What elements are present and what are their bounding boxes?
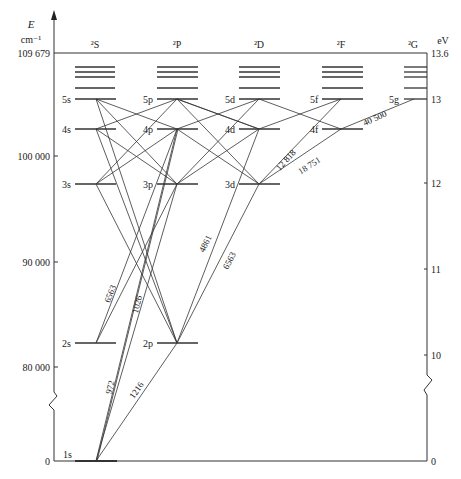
svg-text:1s: 1s <box>63 449 72 460</box>
left-tick-label: 0 <box>45 456 50 467</box>
wavelength-labels: 6563 1026 972 1216 4861 6563 12 818 18 7… <box>102 108 388 400</box>
left-tick-label: 80 000 <box>23 362 51 373</box>
svg-text:5g: 5g <box>389 94 399 105</box>
svg-text:3d: 3d <box>225 179 235 190</box>
right-tick-label: 12 <box>431 178 441 189</box>
transition-lines <box>96 99 414 461</box>
right-tick-label: 13 <box>431 94 441 105</box>
left-top-value: 109 679 <box>18 48 51 59</box>
right-tick-label: 13.6 <box>431 48 449 59</box>
right-tick-label: 0 <box>431 456 436 467</box>
axis-arrow-icon <box>51 10 57 20</box>
wavelength-label: 4861 <box>197 233 214 254</box>
svg-text:4s: 4s <box>62 124 71 135</box>
header-2D: ²D <box>254 39 264 50</box>
header-2S: ²S <box>91 39 100 50</box>
svg-text:5s: 5s <box>62 94 71 105</box>
svg-text:5p: 5p <box>143 94 153 105</box>
left-tick-label: 90 000 <box>23 257 51 268</box>
energy-symbol: E <box>27 18 35 30</box>
header-2G: ²G <box>408 39 418 50</box>
wavelength-label: 40 500 <box>361 108 388 127</box>
svg-text:3p: 3p <box>143 179 153 190</box>
header-2F: ²F <box>337 39 346 50</box>
left-tick-label: 100 000 <box>18 151 51 162</box>
svg-text:2s: 2s <box>62 338 71 349</box>
svg-text:2p: 2p <box>143 338 153 349</box>
svg-text:3s: 3s <box>62 179 71 190</box>
wavelength-label: 1216 <box>127 380 146 401</box>
wavelength-label: 6563 <box>102 283 118 304</box>
wavelength-label: 972 <box>104 380 117 396</box>
right-axis <box>424 53 432 461</box>
upper-sublevels <box>75 67 427 88</box>
energy-level-diagram: E cm⁻¹ 109 679 100 000 90 000 80 000 0 e… <box>0 0 461 479</box>
header-2P: ²P <box>173 39 182 50</box>
wavelength-label: 1026 <box>130 294 144 314</box>
right-tick-label: 11 <box>431 264 441 275</box>
energy-unit: cm⁻¹ <box>21 34 42 45</box>
left-ticks <box>54 156 58 367</box>
right-tick-label: 10 <box>431 350 441 361</box>
left-axis <box>49 18 57 461</box>
svg-text:5f: 5f <box>310 94 319 105</box>
svg-text:5d: 5d <box>225 94 235 105</box>
wavelength-label: 18 751 <box>296 155 322 177</box>
ev-unit: eV <box>437 35 449 46</box>
